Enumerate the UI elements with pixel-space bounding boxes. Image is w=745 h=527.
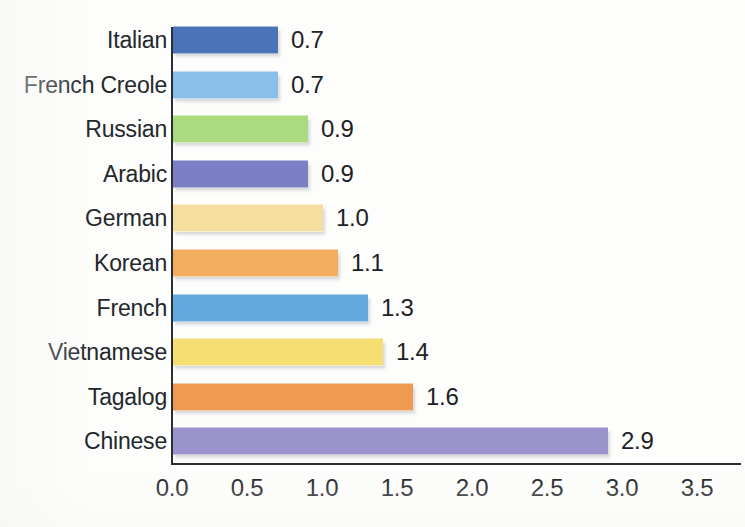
bar-fill — [173, 339, 383, 366]
bar-fill — [173, 250, 338, 277]
bar-row: Vietnamese1.4 — [0, 329, 745, 375]
category-label: Italian — [107, 27, 167, 54]
bar-row: Chinese2.9 — [0, 418, 745, 464]
bar-fill — [173, 160, 308, 187]
bar-row: Russian0.9 — [0, 106, 745, 152]
bar-value-label: 1.0 — [336, 204, 368, 232]
category-label: Vietnamese — [48, 339, 167, 366]
category-label: German — [85, 205, 167, 232]
category-label: Chinese — [84, 428, 167, 455]
bar — [173, 383, 413, 410]
bar — [173, 27, 278, 54]
x-tick-label: 2.0 — [456, 474, 488, 502]
plot-area: Italian0.7French Creole0.7Russian0.9Arab… — [0, 0, 745, 527]
x-tick-label: 1.5 — [381, 474, 413, 502]
bar — [173, 250, 338, 277]
y-axis-line — [171, 27, 173, 464]
bar — [173, 339, 383, 366]
bar-value-label: 0.9 — [321, 160, 353, 188]
category-label: French — [97, 294, 167, 321]
bar-row: French Creole0.7 — [0, 62, 745, 108]
bar — [173, 428, 608, 455]
category-label: French Creole — [24, 71, 167, 98]
bar — [173, 294, 368, 321]
bar-fill — [173, 71, 278, 98]
x-tick-label: 3.5 — [681, 474, 713, 502]
bar — [173, 160, 308, 187]
x-tick-label: 0.0 — [156, 474, 188, 502]
bar-value-label: 0.7 — [291, 26, 323, 54]
bar-value-label: 1.4 — [396, 338, 428, 366]
x-tick-label: 2.5 — [531, 474, 563, 502]
bar-value-label: 1.6 — [426, 383, 458, 411]
bar-fill — [173, 294, 368, 321]
bar-row: Korean1.1 — [0, 240, 745, 286]
bar-fill — [173, 116, 308, 143]
bar-fill — [173, 27, 278, 54]
bar-value-label: 2.9 — [621, 427, 653, 455]
bar-value-label: 0.7 — [291, 71, 323, 99]
category-label: Tagalog — [88, 383, 167, 410]
bar-row: Tagalog1.6 — [0, 374, 745, 420]
bar-chart: Italian0.7French Creole0.7Russian0.9Arab… — [0, 0, 745, 527]
bar-fill — [173, 383, 413, 410]
x-tick-label: 1.0 — [306, 474, 338, 502]
bar-row: German1.0 — [0, 195, 745, 241]
category-label: Korean — [94, 250, 167, 277]
bar-row: Arabic0.9 — [0, 151, 745, 197]
bar-row: French1.3 — [0, 285, 745, 331]
bar-row: Italian0.7 — [0, 17, 745, 63]
x-tick-label: 3.0 — [606, 474, 638, 502]
x-tick-label: 0.5 — [231, 474, 263, 502]
category-label: Arabic — [103, 160, 167, 187]
x-axis-line — [171, 463, 741, 465]
category-label: Russian — [85, 116, 167, 143]
bar-value-label: 1.3 — [381, 294, 413, 322]
bar-value-label: 1.1 — [351, 249, 383, 277]
bar — [173, 71, 278, 98]
bar — [173, 116, 308, 143]
bar-fill — [173, 428, 608, 455]
bar-value-label: 0.9 — [321, 115, 353, 143]
bar-fill — [173, 205, 323, 232]
bar — [173, 205, 323, 232]
